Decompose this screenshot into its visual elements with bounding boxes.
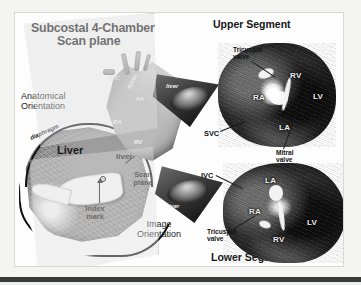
mitral-valve-label: Mitral valve — [276, 149, 314, 164]
lower-tricuspid-line1: Tricuspid — [207, 228, 236, 235]
wedge-lower-liver-label: liver — [167, 203, 179, 209]
upper-tricuspid-line2: valve — [233, 53, 250, 60]
upper-tricuspid-line1: Tricuspid — [233, 46, 262, 53]
lower-tricuspid-valve-label: Tricuspid valve — [207, 228, 247, 243]
upper-rv-label: RV — [290, 71, 302, 80]
upper-ra-label: RA — [253, 93, 265, 102]
svc-label: SVC — [204, 129, 219, 138]
header-upper-segment: Upper Segment — [213, 18, 291, 30]
lower-la-echo — [269, 185, 283, 201]
figure-stage: Subcostal 4-Chamber Scan plane Upper Seg… — [0, 0, 361, 285]
lower-rv-label: RV — [273, 235, 285, 244]
liver-label-large: Liver — [57, 144, 83, 156]
upper-segment-plane — [15, 13, 157, 147]
mitral-valve-line1: Mitral — [276, 149, 294, 156]
wedge-upper-liver-label: liver — [166, 83, 178, 89]
lower-segment-ultrasound — [223, 163, 344, 263]
lower-lv-label: LV — [307, 218, 317, 227]
figure-frame: Subcostal 4-Chamber Scan plane Upper Seg… — [14, 12, 344, 267]
lower-tricuspid-line2: valve — [207, 235, 224, 242]
heart-rv-label: RV — [134, 139, 142, 145]
lower-segment-plane — [15, 147, 159, 267]
ivc-label: IVC — [201, 171, 213, 180]
upper-tricuspid-valve-label: Tricuspid valve — [233, 46, 273, 61]
upper-lv-label: LV — [313, 92, 323, 101]
lower-la-label: LA — [265, 176, 276, 185]
